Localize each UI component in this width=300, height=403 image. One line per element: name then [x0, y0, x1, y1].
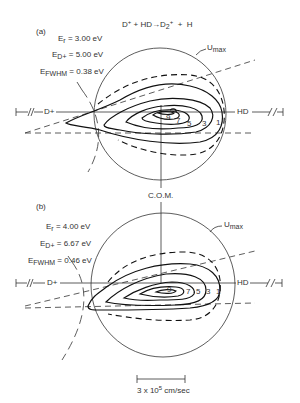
panel-label-a: (a) [36, 27, 46, 36]
beam-label-hd-a: HD [237, 107, 249, 116]
contour-label-5-a: 5 [187, 120, 191, 128]
contour-label-3-b: 3 [206, 288, 210, 296]
beam-label-d-a: D+ [44, 107, 54, 116]
beam-label-hd-b: HD [237, 278, 249, 287]
contours-b [88, 264, 220, 310]
param-er-a: Er = 3.00 eV [58, 34, 102, 45]
beam-label-d-b: D+ [47, 278, 57, 287]
contour-label-1-a: 1 [216, 119, 220, 127]
umax-label-b: Umax [224, 220, 243, 231]
param-ed-b: ED+ = 6.67 eV [40, 239, 91, 250]
contour-label-9-a: 9 [166, 114, 170, 122]
param-efwhm-a: EFWHM = 0.38 eV [40, 67, 104, 78]
param-er-b: Er = 4.00 eV [46, 222, 90, 233]
param-ed-a: ED+ = 5.00 eV [52, 50, 103, 61]
scale-bar-label: 3 x 105 cm/sec [137, 384, 190, 395]
scale-bar [137, 375, 185, 383]
umax-label-a: Umax [207, 43, 226, 54]
contour-label-5-b: 5 [196, 288, 200, 296]
arrow-icon: → [152, 20, 160, 29]
contour-label-7-b: 7 [186, 288, 190, 296]
param-efwhm-b: EFWHM = 0.46 eV [28, 256, 92, 267]
contour-label-1-b: 1 [216, 288, 220, 296]
contour-label-3-a: 3 [202, 120, 206, 128]
contour-label-9-b: 9 [167, 286, 171, 294]
reaction-equation: D+ + HD→D2+ + H [122, 18, 193, 31]
contour-label-7-a: 7 [176, 117, 180, 125]
com-label: C.O.M. [148, 191, 173, 200]
contours-a [66, 84, 222, 143]
panel-label-b: (b) [36, 202, 46, 211]
